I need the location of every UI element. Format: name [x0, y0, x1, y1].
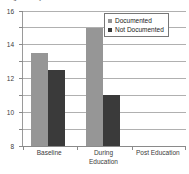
- chart-legend: Documented Not Documented: [104, 13, 169, 37]
- legend-swatch-documented: [108, 19, 112, 23]
- x-axis-label-line: Baseline: [22, 149, 76, 158]
- bar: [31, 53, 48, 146]
- x-axis-category-label: Post Education: [131, 149, 185, 158]
- legend-item: Not Documented: [108, 25, 164, 34]
- x-axis-category-label: DuringEducation: [76, 149, 130, 166]
- y-axis-tick: 10: [19, 61, 23, 62]
- y-axis-tick: 8: [19, 78, 23, 79]
- legend-item: Documented: [108, 16, 164, 25]
- y-axis-tick: 4: [19, 112, 23, 113]
- x-axis-label-line: Education: [76, 158, 130, 167]
- chart-title: Length of stay: [3, 0, 42, 2]
- x-axis-label-line: During: [76, 149, 130, 158]
- bar: [86, 28, 103, 146]
- bar-chart: Length of stay 1614121086420 BaselineDur…: [0, 0, 189, 174]
- y-axis-label: 8: [10, 142, 14, 149]
- x-axis-label-line: Post Education: [131, 149, 185, 158]
- bar: [103, 95, 120, 146]
- y-axis-tick: 12: [19, 44, 23, 45]
- legend-swatch-not-documented: [108, 28, 112, 32]
- legend-label-documented: Documented: [115, 17, 152, 24]
- y-axis-label: 14: [7, 41, 14, 48]
- y-axis-tick: 6: [19, 95, 23, 96]
- gridline: [23, 11, 186, 12]
- legend-label-not-documented: Not Documented: [115, 26, 164, 33]
- y-axis-label: 10: [7, 108, 14, 115]
- y-axis-tick: 14: [19, 27, 23, 28]
- bar: [48, 70, 65, 146]
- y-axis-tick: 2: [19, 129, 23, 130]
- y-axis-label: 12: [7, 75, 14, 82]
- y-axis-tick: 16: [19, 11, 23, 12]
- y-axis-label: 16: [7, 7, 14, 14]
- x-axis-category-label: Baseline: [22, 149, 76, 158]
- x-axis-tick: [185, 146, 186, 150]
- gridline: [23, 44, 186, 45]
